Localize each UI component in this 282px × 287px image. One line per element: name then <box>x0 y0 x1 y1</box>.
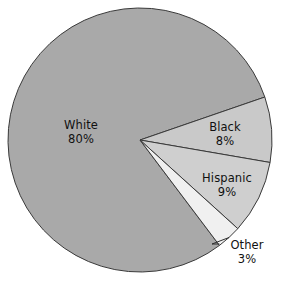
pie-slices <box>8 8 272 272</box>
pie-chart-canvas <box>0 0 282 287</box>
pie-chart: White 80% Black 8% Hispanic 9% Other 3% <box>0 0 282 287</box>
